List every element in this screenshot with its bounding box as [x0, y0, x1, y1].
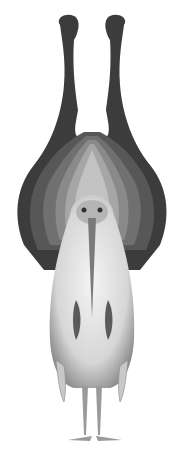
bird-illustration: [0, 0, 184, 454]
bird-legs: [68, 386, 122, 441]
